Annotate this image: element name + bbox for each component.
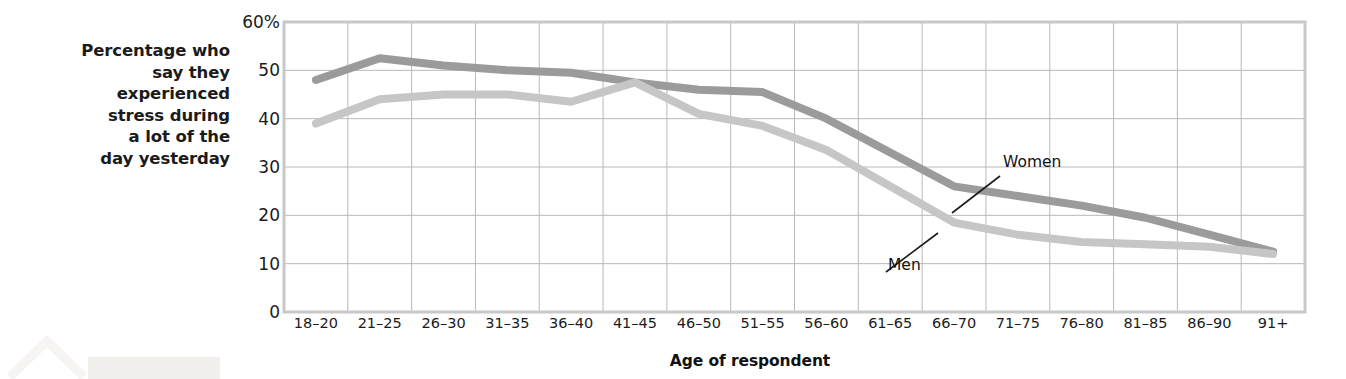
series-label-women: Women — [1003, 153, 1061, 171]
x-tick-label-10: 66–70 — [932, 315, 976, 331]
x-axis-tick-labels: 18–2021–2526–3031–3536–4041–4546–5051–55… — [0, 0, 1346, 379]
x-tick-label-2: 26–30 — [421, 315, 465, 331]
x-tick-label-9: 61–65 — [868, 315, 912, 331]
x-tick-label-14: 86–90 — [1187, 315, 1231, 331]
x-tick-label-11: 71–75 — [996, 315, 1040, 331]
x-tick-label-12: 76–80 — [1060, 315, 1104, 331]
x-tick-label-1: 21–25 — [358, 315, 402, 331]
page-artifact-band — [88, 357, 220, 379]
series-label-men: Men — [888, 256, 921, 274]
x-tick-label-13: 81–85 — [1123, 315, 1167, 331]
x-axis-title-text: Age of respondent — [670, 352, 830, 370]
page-artifact-chevron — [8, 333, 86, 379]
chart-figure: Percentage who say they experienced stre… — [0, 0, 1346, 379]
x-tick-label-7: 51–55 — [741, 315, 785, 331]
x-tick-label-15: 91+ — [1258, 315, 1289, 331]
x-tick-label-4: 36–40 — [549, 315, 593, 331]
x-tick-label-3: 31–35 — [485, 315, 529, 331]
x-tick-label-6: 46–50 — [677, 315, 721, 331]
x-tick-label-8: 56–60 — [804, 315, 848, 331]
x-tick-label-5: 41–45 — [613, 315, 657, 331]
x-tick-label-0: 18–20 — [294, 315, 338, 331]
